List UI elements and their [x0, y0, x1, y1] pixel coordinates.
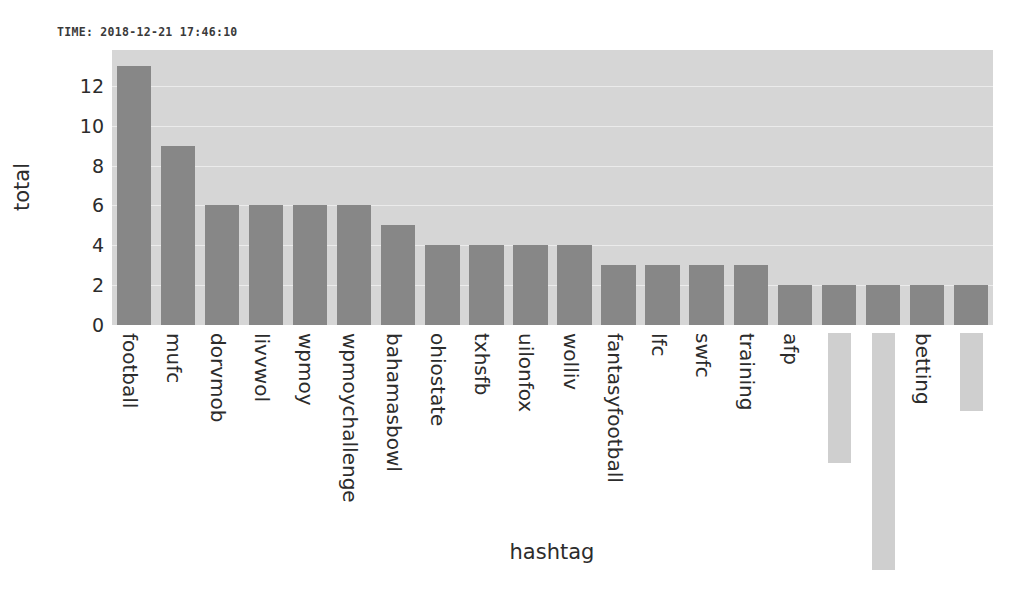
x-tick-label: txhsfb [470, 333, 494, 396]
x-tick-label: lfc [647, 333, 671, 357]
x-tick-label: fantasyfootball [603, 333, 627, 483]
x-tick-label: mufc [162, 333, 186, 383]
x-tick-label: wolliv [559, 333, 583, 390]
x-tick-label: dorvmob [206, 333, 230, 422]
x-axis-ticks: footballmufcdorvmoblivvwolwpmoywpmoychal… [0, 0, 1033, 605]
x-tick-label: betting [911, 333, 935, 405]
x-tick-label: wpmoy [294, 333, 318, 406]
redacted-x-tick-label [828, 333, 851, 463]
x-axis-label: hashtag [510, 540, 595, 564]
x-tick-label: afp [779, 333, 803, 365]
x-tick-label: bahamasbowl [382, 333, 406, 472]
redacted-x-tick-label [960, 333, 983, 411]
x-tick-label: training [735, 333, 759, 410]
redacted-x-tick-label [872, 333, 895, 570]
x-tick-label: uilonfox [514, 333, 538, 412]
x-tick-label: livvwol [250, 333, 274, 402]
x-tick-label: ohiostate [426, 333, 450, 426]
x-tick-label: wpmoychallenge [338, 333, 362, 503]
chart-figure: TIME: 2018-12-21 17:46:10 024681012 tota… [0, 0, 1033, 605]
x-tick-label: swfc [691, 333, 715, 378]
x-tick-label: football [118, 333, 142, 408]
